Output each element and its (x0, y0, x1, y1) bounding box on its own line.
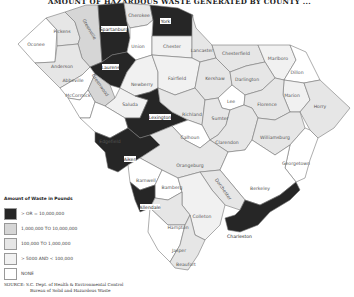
svg-text:Hampton: Hampton (167, 225, 188, 230)
svg-text:Richland: Richland (182, 112, 202, 117)
svg-text:Georgetown: Georgetown (282, 161, 310, 166)
legend-title: Amount of Waste in Pounds (4, 196, 77, 201)
county-oconee[interactable] (18, 18, 57, 63)
svg-text:Barnwell: Barnwell (136, 178, 156, 183)
legend-item: > OR = 10,000,000 (4, 206, 77, 221)
svg-text:Florence: Florence (257, 102, 277, 107)
svg-text:Beaufort: Beaufort (176, 262, 196, 267)
svg-text:Cherokee: Cherokee (128, 13, 150, 18)
county-lancaster[interactable] (192, 15, 216, 62)
legend-item: 100,000 TO 1,000,000 (4, 236, 77, 251)
svg-text:Lancaster: Lancaster (191, 48, 214, 53)
svg-text:Berkeley: Berkeley (250, 186, 270, 191)
legend-item: > 5000 AND < 100,000 (4, 251, 77, 266)
svg-text:Abbeville: Abbeville (62, 78, 83, 83)
svg-text:Horry: Horry (314, 104, 327, 109)
svg-text:Lee: Lee (227, 99, 235, 104)
source-note: SOURCE: S.C. Dept. of Health & Environme… (4, 282, 123, 294)
svg-text:Orangeburg: Orangeburg (176, 163, 204, 168)
svg-text:Edgefield: Edgefield (99, 139, 121, 144)
svg-text:Chester: Chester (163, 44, 181, 49)
map-legend: Amount of Waste in Pounds > OR = 10,000,… (4, 196, 77, 281)
svg-text:Dillon: Dillon (290, 70, 303, 75)
svg-text:Chesterfield: Chesterfield (222, 51, 250, 56)
legend-swatch-cat2 (4, 223, 17, 235)
svg-text:Kershaw: Kershaw (205, 76, 225, 81)
svg-text:Anderson: Anderson (51, 64, 73, 69)
svg-text:Charleston: Charleston (227, 234, 252, 239)
svg-text:Bamberg: Bamberg (162, 185, 183, 190)
svg-text:Newberry: Newberry (131, 82, 153, 87)
svg-text:Spartanburg: Spartanburg (100, 27, 129, 32)
svg-text:Colleton: Colleton (193, 214, 212, 219)
svg-text:Fairfield: Fairfield (168, 76, 186, 81)
svg-text:Williamsburg: Williamsburg (260, 135, 290, 140)
svg-text:Oconee: Oconee (27, 42, 45, 47)
svg-text:Laurens: Laurens (101, 65, 120, 70)
svg-text:Pickens: Pickens (53, 29, 71, 34)
county-york[interactable] (150, 5, 193, 36)
svg-text:Allendale: Allendale (139, 205, 160, 210)
svg-text:Aiken: Aiken (124, 157, 137, 162)
svg-text:Jasper: Jasper (171, 248, 186, 253)
svg-text:York: York (160, 19, 171, 24)
svg-text:Sumter: Sumter (212, 116, 229, 121)
legend-item: 1,000,000 TO 10,000,000 (4, 221, 77, 236)
legend-swatch-cat4 (4, 253, 17, 265)
legend-swatch-cat5 (4, 268, 17, 280)
legend-swatch-cat3 (4, 238, 17, 250)
legend-swatch-cat1 (4, 208, 17, 220)
svg-text:Lexington: Lexington (149, 115, 172, 120)
svg-text:Marion: Marion (284, 93, 300, 98)
svg-text:Marlboro: Marlboro (268, 56, 288, 61)
svg-text:Union: Union (131, 44, 144, 49)
svg-text:Calhoun: Calhoun (181, 135, 200, 140)
legend-item: NONE (4, 266, 77, 281)
svg-text:Clarendon: Clarendon (215, 140, 239, 145)
svg-text:McCormick: McCormick (65, 93, 91, 98)
svg-text:Darlington: Darlington (235, 77, 259, 82)
svg-text:Saluda: Saluda (122, 102, 138, 107)
